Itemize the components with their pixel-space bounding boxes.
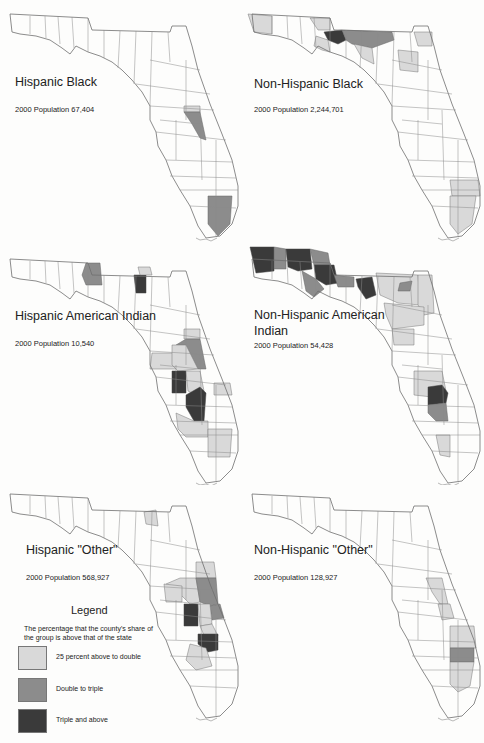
- panel-title: Non-Hispanic American Indian: [254, 307, 385, 339]
- map-panel-non-hispanic-black: Non-Hispanic Black 2000 Population 2,244…: [242, 0, 484, 245]
- legend-item-mid: Double to triple: [18, 678, 178, 706]
- panel-title: Hispanic American Indian: [15, 308, 156, 324]
- map-panel-non-hispanic-other: Non-Hispanic "Other" 2000 Population 128…: [242, 480, 484, 743]
- panel-population: 2000 Population 54,428: [254, 341, 333, 350]
- legend-description: The percentage that the county's share o…: [24, 624, 164, 642]
- panel-population: 2000 Population 10,540: [15, 339, 94, 348]
- panel-title: Non-Hispanic "Other": [254, 542, 373, 558]
- florida-county-map: [242, 245, 484, 485]
- legend-swatch-high: [18, 709, 47, 733]
- panel-title: Hispanic Black: [15, 74, 97, 90]
- panel-population: 2000 Population 568,927: [26, 573, 109, 582]
- legend-item-low: 25 percent above to double: [18, 646, 178, 674]
- panel-title-line-1: Non-Hispanic American: [254, 307, 385, 323]
- panel-title: Hispanic "Other": [26, 542, 118, 558]
- florida-county-map: [242, 480, 484, 743]
- map-panel-hispanic-black: Hispanic Black 2000 Population 67,404: [0, 0, 242, 245]
- panel-population: 2000 Population 128,927: [254, 573, 337, 582]
- map-panel-hispanic-american-indian: Hispanic American Indian 2000 Population…: [0, 245, 242, 485]
- legend-label: 25 percent above to double: [56, 653, 141, 660]
- legend-label: Double to triple: [56, 685, 103, 692]
- legend-item-high: Triple and above: [18, 709, 178, 737]
- legend-title: Legend: [71, 604, 108, 616]
- florida-county-map: [242, 0, 484, 245]
- panel-title-line-2: Indian: [254, 323, 385, 339]
- panel-population: 2000 Population 2,244,701: [254, 105, 344, 114]
- legend-swatch-low: [18, 646, 47, 670]
- florida-county-map: [0, 0, 242, 245]
- legend-label: Triple and above: [56, 716, 108, 723]
- panel-title: Non-Hispanic Black: [254, 76, 363, 92]
- panel-population: 2000 Population 67,404: [15, 105, 94, 114]
- map-panel-non-hispanic-american-indian: Non-Hispanic American Indian 2000 Popula…: [242, 245, 484, 485]
- legend-swatch-mid: [18, 678, 47, 702]
- florida-county-map: [0, 245, 242, 485]
